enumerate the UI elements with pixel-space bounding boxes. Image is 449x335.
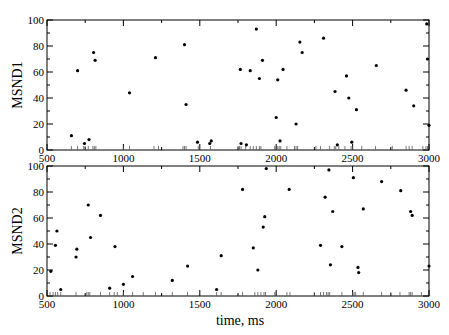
data-point <box>333 90 336 93</box>
data-point <box>75 248 78 251</box>
data-point <box>108 287 111 290</box>
y-tick-label: 60 <box>33 212 45 224</box>
data-point <box>87 138 90 141</box>
x-tick-label: 3000 <box>418 298 441 310</box>
data-point <box>345 74 348 77</box>
data-point <box>322 37 325 40</box>
data-point <box>55 229 58 232</box>
data-point <box>99 214 102 217</box>
data-point <box>399 189 402 192</box>
x-tick-label: 1500 <box>189 152 212 164</box>
x-tick-label: 2500 <box>342 298 365 310</box>
data-point <box>122 283 125 286</box>
data-point <box>276 78 279 81</box>
data-point <box>239 142 242 145</box>
data-point <box>425 22 428 25</box>
data-point <box>249 69 252 72</box>
data-point <box>258 77 261 80</box>
data-point <box>59 288 62 291</box>
data-point <box>426 57 429 60</box>
plot-frame <box>47 166 429 296</box>
data-point <box>275 116 278 119</box>
y-tick-label: 0 <box>39 144 45 156</box>
data-point <box>340 245 343 248</box>
data-point <box>262 226 265 229</box>
data-point <box>298 41 301 44</box>
data-point <box>331 210 334 213</box>
y-tick-label: 40 <box>33 238 45 250</box>
y-axis-label-msnd1: MSND1 <box>10 61 25 108</box>
data-point <box>409 210 412 213</box>
y-tick-label: 20 <box>33 264 45 276</box>
data-point <box>131 275 134 278</box>
data-point <box>255 28 258 31</box>
data-point <box>186 265 189 268</box>
data-point <box>281 68 284 71</box>
data-point <box>301 51 304 54</box>
y-tick-label: 0 <box>39 290 45 302</box>
data-point <box>380 180 383 183</box>
y-tick-label: 100 <box>28 160 45 172</box>
data-point <box>241 188 244 191</box>
data-point <box>411 214 414 217</box>
data-point <box>154 56 157 59</box>
data-point <box>128 91 131 94</box>
data-point <box>323 196 326 199</box>
y-axis-label-msnd2: MSND2 <box>10 207 25 254</box>
data-point <box>294 122 297 125</box>
y-tick-label: 80 <box>33 186 45 198</box>
y-tick-label: 20 <box>33 118 45 130</box>
y-tick-label: 80 <box>33 40 45 52</box>
plot-frame <box>47 20 429 150</box>
data-point <box>83 142 86 145</box>
data-point <box>288 188 291 191</box>
chart-figure: 50010001500200025003000020406080100 5001… <box>0 0 449 335</box>
data-point <box>319 244 322 247</box>
data-point <box>404 89 407 92</box>
x-tick-label: 1000 <box>112 298 135 310</box>
panel-msnd2: 50010001500200025003000020406080100 <box>28 160 441 310</box>
y-tick-label: 100 <box>28 14 45 26</box>
y-tick-label: 60 <box>33 66 45 78</box>
data-point <box>350 141 353 144</box>
data-point <box>239 68 242 71</box>
x-tick-label: 2000 <box>265 298 288 310</box>
x-axis-label: time, ms <box>216 313 264 328</box>
data-point <box>327 168 330 171</box>
data-point <box>355 108 358 111</box>
data-point <box>336 143 339 146</box>
data-point <box>263 215 266 218</box>
x-tick-label: 2000 <box>265 152 288 164</box>
x-tick-label: 1500 <box>189 298 212 310</box>
data-point <box>427 265 430 268</box>
x-tick-label: 3000 <box>418 152 441 164</box>
data-point <box>54 244 57 247</box>
data-point <box>220 254 223 257</box>
data-point <box>76 69 79 72</box>
data-point <box>70 134 73 137</box>
data-point <box>329 263 332 266</box>
data-point <box>89 236 92 239</box>
y-tick-label: 40 <box>33 92 45 104</box>
data-point <box>74 255 77 258</box>
data-point <box>347 96 350 99</box>
data-point <box>210 139 213 142</box>
data-point <box>245 143 248 146</box>
x-tick-label: 2500 <box>342 152 365 164</box>
data-point <box>92 51 95 54</box>
data-point <box>113 245 116 248</box>
data-point <box>352 176 355 179</box>
x-tick-label: 1000 <box>112 152 135 164</box>
data-point <box>261 59 264 62</box>
data-point <box>278 139 281 142</box>
data-point <box>171 279 174 282</box>
data-point <box>94 59 97 62</box>
data-point <box>252 246 255 249</box>
data-point <box>87 203 90 206</box>
data-point <box>265 167 268 170</box>
data-point <box>357 271 360 274</box>
data-point <box>49 270 52 273</box>
panel-msnd1: 50010001500200025003000020406080100 <box>28 14 441 164</box>
data-point <box>412 104 415 107</box>
data-point <box>356 266 359 269</box>
